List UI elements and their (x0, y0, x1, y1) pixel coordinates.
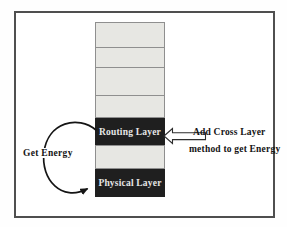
cross-layer-annotation: Add Cross Layer method to get Energy (189, 124, 280, 158)
layer-stack: Routing Layer Physical Layer (95, 22, 165, 200)
layer-cell-4 (95, 95, 165, 118)
cross-layer-annotation-line2: method to get Energy (189, 141, 280, 158)
physical-layer-cell: Physical Layer (95, 169, 165, 197)
routing-layer-cell: Routing Layer (95, 118, 165, 145)
get-energy-label: Get Energy (21, 148, 75, 158)
physical-layer-label: Physical Layer (98, 178, 161, 188)
diagram-canvas: Routing Layer Physical Layer Get Energy … (0, 0, 287, 227)
layer-cell-3 (95, 67, 165, 96)
cross-layer-annotation-line1: Add Cross Layer (189, 124, 280, 141)
layer-cell-2 (95, 47, 165, 68)
layer-cell-1 (95, 22, 165, 48)
routing-layer-label: Routing Layer (99, 127, 161, 137)
layer-cell-6 (95, 145, 165, 169)
